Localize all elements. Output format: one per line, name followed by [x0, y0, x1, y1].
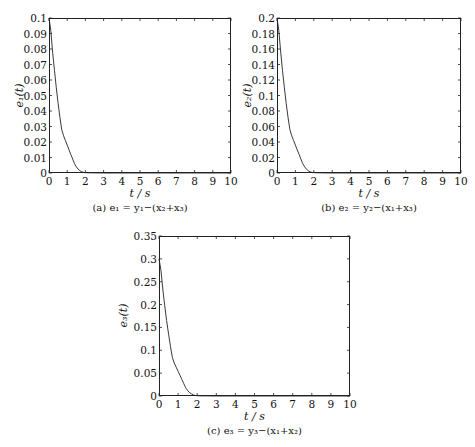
- y-tick-label: 0.02: [7, 137, 47, 147]
- x-tick-label: 3: [94, 176, 114, 186]
- x-tick-label: 3: [322, 176, 342, 186]
- x-tick-label: 10: [451, 176, 471, 186]
- x-tick-label: 1: [57, 176, 77, 186]
- x-axis-title: t / s: [120, 187, 160, 200]
- y-tick-label: 0.02: [235, 153, 275, 163]
- y-tick-label: 0.35: [117, 231, 157, 241]
- y-tick-label: 0: [235, 168, 275, 178]
- x-tick-label: 6: [264, 399, 284, 409]
- x-tick-label: 9: [321, 399, 341, 409]
- y-tick-label: 0.14: [235, 60, 275, 70]
- x-tick-label: 1: [168, 399, 188, 409]
- y-tick-label: 0.1: [7, 13, 47, 23]
- y-tick-label: 0.07: [7, 60, 47, 70]
- figure-caption: (b) e₂ = y₂−(x₁+x₃): [289, 202, 449, 213]
- series-line: [159, 259, 350, 396]
- x-tick-label: 8: [185, 176, 205, 186]
- x-tick-label: 2: [75, 176, 95, 186]
- y-tick-label: 0.25: [117, 277, 157, 287]
- y-tick-label: 0.06: [235, 122, 275, 132]
- y-tick-label: 0.03: [7, 122, 47, 132]
- line-plot: [159, 236, 350, 396]
- y-tick-label: 0.1: [117, 345, 157, 355]
- x-tick-label: 8: [302, 399, 322, 409]
- y-tick-label: 0: [117, 391, 157, 401]
- x-tick-label: 4: [112, 176, 132, 186]
- figure-caption: (c) e₃ = y₃−(x₁+x₂): [175, 425, 335, 436]
- x-tick-label: 5: [245, 399, 265, 409]
- y-axis-title: e₃(t): [117, 296, 130, 336]
- y-tick-label: 0.05: [117, 368, 157, 378]
- x-tick-label: 5: [130, 176, 150, 186]
- line-plot: [49, 18, 231, 173]
- x-tick-label: 4: [225, 399, 245, 409]
- y-tick-label: 0.01: [7, 153, 47, 163]
- y-axis-title: e₂(t): [241, 75, 254, 115]
- y-tick-label: 0.18: [235, 29, 275, 39]
- x-tick-label: 6: [148, 176, 168, 186]
- x-tick-label: 7: [283, 399, 303, 409]
- x-tick-label: 6: [377, 176, 397, 186]
- figure-caption: (a) e₁ = y₁−(x₂+x₃): [60, 202, 220, 213]
- y-tick-label: 0.08: [7, 44, 47, 54]
- x-axis-title: t / s: [235, 410, 275, 423]
- y-tick-label: 0.09: [7, 29, 47, 39]
- x-tick-label: 5: [359, 176, 379, 186]
- series-line: [49, 18, 231, 173]
- y-tick-label: 0.3: [117, 254, 157, 264]
- x-tick-label: 7: [166, 176, 186, 186]
- x-tick-label: 8: [414, 176, 434, 186]
- y-tick-label: 0.2: [235, 13, 275, 23]
- y-tick-label: 0.16: [235, 44, 275, 54]
- x-tick-label: 4: [341, 176, 361, 186]
- y-tick-label: 0.04: [235, 137, 275, 147]
- x-tick-label: 3: [206, 399, 226, 409]
- x-tick-label: 2: [187, 399, 207, 409]
- series-line: [277, 18, 461, 173]
- x-tick-label: 9: [203, 176, 223, 186]
- y-tick-label: 0: [7, 168, 47, 178]
- x-tick-label: 10: [340, 399, 360, 409]
- x-tick-label: 7: [396, 176, 416, 186]
- y-axis-title: e₁(t): [13, 75, 26, 115]
- x-tick-label: 1: [285, 176, 305, 186]
- x-tick-label: 2: [304, 176, 324, 186]
- x-tick-label: 9: [433, 176, 453, 186]
- x-axis-title: t / s: [349, 187, 389, 200]
- line-plot: [277, 18, 461, 173]
